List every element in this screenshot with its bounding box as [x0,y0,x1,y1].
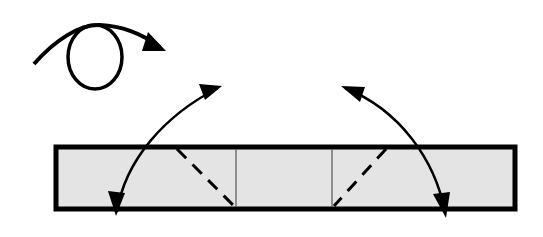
turn-over-icon [34,25,166,89]
origami-diagram [0,0,543,237]
diagram-svg [0,0,543,237]
